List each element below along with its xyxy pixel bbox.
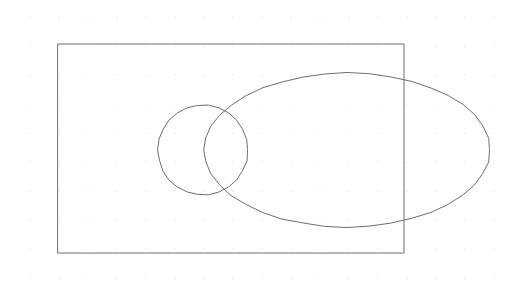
grid-dot (406, 248, 407, 249)
grid-dot (261, 16, 262, 17)
grid-dot (377, 132, 378, 133)
grid-dot (348, 74, 349, 75)
grid-dot (290, 161, 291, 162)
grid-dot (58, 132, 59, 133)
grid-dot (464, 74, 465, 75)
grid-dot (145, 161, 146, 162)
grid-dot (174, 45, 175, 46)
grid-dot (493, 219, 494, 220)
grid-dot (87, 190, 88, 191)
grid-dot (29, 45, 30, 46)
grid-dot (290, 132, 291, 133)
grid-dot (29, 219, 30, 220)
grid-dot (174, 103, 175, 104)
grid-dot (319, 132, 320, 133)
grid-dot (58, 219, 59, 220)
grid-dot (145, 132, 146, 133)
grid-dot (319, 45, 320, 46)
grid-dot (29, 248, 30, 249)
grid-dot (435, 16, 436, 17)
grid-dot (29, 190, 30, 191)
grid-dot (58, 248, 59, 249)
grid-dot (58, 190, 59, 191)
grid-dot (319, 248, 320, 249)
grid-dot (464, 248, 465, 249)
grid-dot (261, 161, 262, 162)
grid-dot (348, 45, 349, 46)
grid-dot (87, 248, 88, 249)
grid-dot (493, 248, 494, 249)
grid-dot (290, 45, 291, 46)
grid-dot (435, 219, 436, 220)
grid-dot (406, 161, 407, 162)
grid-dot (464, 132, 465, 133)
grid-dot (348, 219, 349, 220)
grid-dot (464, 45, 465, 46)
grid-dot (232, 74, 233, 75)
grid-dot (203, 16, 204, 17)
grid-dot (174, 190, 175, 191)
grid-dot (145, 74, 146, 75)
grid-dot (464, 277, 465, 278)
grid-dot (29, 74, 30, 75)
grid-dot (464, 161, 465, 162)
grid-dot (87, 132, 88, 133)
grid-dot (435, 74, 436, 75)
grid-dot (174, 161, 175, 162)
grid-dot (232, 248, 233, 249)
grid-dot (232, 45, 233, 46)
grid-dot (145, 248, 146, 249)
grid-dot (203, 103, 204, 104)
grid-dot (261, 74, 262, 75)
drawing-surface[interactable] (0, 0, 522, 294)
grid-dot (87, 219, 88, 220)
grid-dot (290, 16, 291, 17)
grid-dot (464, 103, 465, 104)
grid-dot (174, 219, 175, 220)
grid-dot (319, 190, 320, 191)
grid-dot (493, 45, 494, 46)
drawing-canvas-root[interactable] (0, 0, 522, 294)
grid-dot (435, 277, 436, 278)
grid-dot (116, 16, 117, 17)
grid-dot (319, 103, 320, 104)
grid-dot (493, 277, 494, 278)
grid-dot (377, 277, 378, 278)
grid-dot (348, 103, 349, 104)
grid-dot (319, 219, 320, 220)
grid-dot (203, 277, 204, 278)
grid-dot (58, 16, 59, 17)
grid-dot (203, 74, 204, 75)
grid-dot (29, 277, 30, 278)
grid-dot (493, 16, 494, 17)
grid-dot (29, 16, 30, 17)
grid-dot (116, 277, 117, 278)
grid-dot (116, 248, 117, 249)
grid-dot (493, 190, 494, 191)
grid-dot (348, 277, 349, 278)
grid-dot (464, 219, 465, 220)
grid-dot (232, 132, 233, 133)
grid-dot (319, 161, 320, 162)
grid-dot (406, 190, 407, 191)
grid-dot (116, 45, 117, 46)
grid-dot (261, 103, 262, 104)
grid-dot (464, 16, 465, 17)
grid-dot (145, 190, 146, 191)
grid-dot (261, 277, 262, 278)
grid-dot (174, 74, 175, 75)
grid-dot (493, 74, 494, 75)
grid-dot (406, 277, 407, 278)
grid-dot (116, 103, 117, 104)
grid-dot (348, 161, 349, 162)
grid-dot (406, 45, 407, 46)
grid-dot (58, 45, 59, 46)
grid-dot (377, 45, 378, 46)
grid-dot (348, 248, 349, 249)
grid-dot (29, 161, 30, 162)
grid-dot (290, 103, 291, 104)
grid-dot (290, 190, 291, 191)
grid-dot (261, 132, 262, 133)
grid-dot (406, 16, 407, 17)
grid-dot (87, 161, 88, 162)
